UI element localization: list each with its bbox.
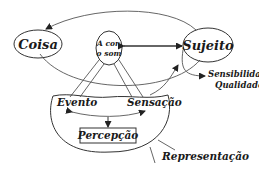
label-sensacao: Sensação: [127, 96, 182, 108]
arrow-evento-sensacao: [72, 111, 145, 116]
label-percepcao: Percepção: [77, 129, 138, 141]
node-cor-som: [96, 31, 122, 65]
label-som: o som: [97, 49, 122, 58]
label-sujeito: Sujeito: [182, 38, 234, 53]
label-coisa: Coisa: [18, 37, 58, 52]
pointer-representacao-2: [150, 147, 155, 163]
arc-coisa-to-sujeito: [40, 54, 200, 86]
diagram-svg: Coisa A cor, o som Sujeito Sensibilidade…: [0, 0, 259, 177]
label-sensibilidades: Sensibilidades: [208, 69, 259, 79]
line-center-sensacao-2: [119, 60, 143, 97]
label-cor: A cor,: [96, 39, 121, 48]
line-center-sensacao-1: [114, 64, 132, 97]
pointer-representacao-1: [158, 140, 175, 150]
label-evento: Evento: [56, 96, 97, 108]
label-representacao: Representação: [161, 150, 249, 162]
arc-sujeito-to-coisa: [46, 11, 196, 30]
label-qualidades: Qualidades: [215, 80, 259, 90]
diagram-canvas: Coisa A cor, o som Sujeito Sensibilidade…: [0, 0, 259, 177]
